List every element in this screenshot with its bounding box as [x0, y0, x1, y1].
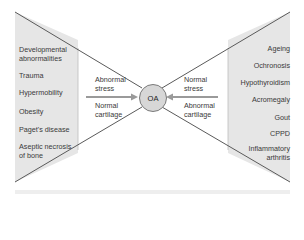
right-factor-line: CPPD	[270, 130, 290, 139]
right-factor-line: Ageing	[268, 45, 290, 54]
right-factor-hypothyroidism: Hypothyroidism	[240, 79, 290, 88]
left-arrow-head-icon	[131, 94, 138, 101]
right-inner-normal-stress: Normal stress	[184, 76, 207, 93]
left-factor-hypermobility: Hypermobility	[19, 89, 63, 98]
right-factor-ageing: Ageing	[268, 45, 290, 54]
left-factor-line: Hypermobility	[19, 89, 63, 98]
right-factor-line: Acromegaly	[252, 96, 290, 105]
left-factor-line: Trauma	[19, 72, 44, 81]
right-factor-line: Gout	[274, 114, 290, 123]
left-factor-trauma: Trauma	[19, 72, 44, 81]
right-factor-gout: Gout	[274, 114, 290, 123]
left-factor-developmental: Developmental abnormalities	[19, 46, 67, 63]
right-factor-line: Hypothyroidism	[240, 79, 290, 88]
left-factor-line: Obesity	[19, 108, 43, 117]
inner-label-line: cartilage	[95, 111, 122, 120]
left-factor-pagets: Paget's disease	[19, 126, 70, 135]
footer-bar	[15, 190, 290, 194]
left-factor-line: Paget's disease	[19, 126, 70, 135]
inner-label-line: cartilage	[184, 111, 215, 120]
right-factor-inflammatory-arthritis: Inflammatory arthritis	[248, 145, 290, 162]
left-factor-line: of bone	[19, 152, 71, 161]
right-inner-abnormal-cartilage: Abnormal cartilage	[184, 102, 215, 119]
right-factor-line: arthritis	[248, 154, 290, 163]
oa-label: OA	[148, 94, 159, 103]
right-factor-line: Ochronosis	[254, 62, 290, 71]
left-inner-abnormal-stress: Abnormal stress	[95, 76, 126, 93]
right-factor-acromegaly: Acromegaly	[252, 96, 290, 105]
oa-center-node: OA	[139, 84, 167, 112]
right-arrow-head-icon	[166, 94, 173, 101]
inner-label-line: stress	[95, 85, 126, 94]
right-factor-ochronosis: Ochronosis	[254, 62, 290, 71]
inner-label-line: stress	[184, 85, 207, 94]
left-factor-obesity: Obesity	[19, 108, 43, 117]
right-factor-cppd: CPPD	[270, 130, 290, 139]
left-factor-line: abnormalities	[19, 55, 67, 64]
left-inner-normal-cartilage: Normal cartilage	[95, 102, 122, 119]
left-factor-aseptic-necrosis: Aseptic necrosis of bone	[19, 143, 71, 160]
